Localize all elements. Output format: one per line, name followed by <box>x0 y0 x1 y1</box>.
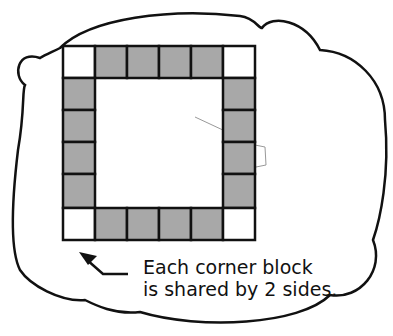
caption-line-1: Each corner block <box>143 256 337 278</box>
arrow-icon <box>79 252 128 274</box>
caption: Each corner block is shared by 2 sides. <box>143 256 337 300</box>
caption-line-2: is shared by 2 sides. <box>143 278 337 300</box>
tile-grid <box>63 46 255 240</box>
